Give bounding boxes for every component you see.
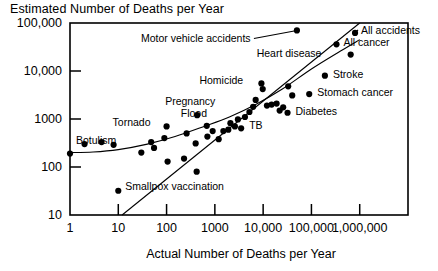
y-tick-label: 1000 [4,112,62,126]
data-point-diabetes [284,110,290,116]
data-point [242,114,248,120]
x-tick-label: 100 [156,221,177,235]
x-tick-label: 1 [67,221,74,235]
data-point [235,116,241,122]
y-tick-label: 100 [4,160,62,174]
data-point [250,104,256,110]
data-point [184,130,190,136]
data-point [148,139,154,145]
data-point [246,109,252,115]
data-point-homicide [258,80,264,86]
data-point [253,97,259,103]
data-point-heart-disease [348,51,354,57]
data-point-tb [238,125,244,131]
point-label-tornado: Tornado [113,117,151,128]
data-point-flood [204,123,210,129]
data-point [194,169,200,175]
x-tick-label: 100,000 [289,221,334,235]
data-point [151,145,157,151]
point-label-diabetes: Diabetes [296,106,337,117]
data-point-all-accidents [352,30,358,36]
data-point [260,86,266,92]
point-label-stomach-cancer: Stomach cancer [317,87,393,98]
data-point-tornado [163,123,169,129]
y-tick-label: 10 [4,208,62,222]
data-point [138,149,144,155]
leader-line [254,30,297,38]
data-point [164,158,170,164]
chart-root: Estimated Number of Deaths per Year 1010… [0,0,438,271]
data-point-all-cancer [333,41,339,47]
data-point-botulism [67,151,73,157]
x-axis-title-text: Actual Number of Deaths per Year [146,247,336,261]
data-point-stroke [322,73,328,79]
x-axis-title: Actual Number of Deaths per Year [0,247,438,261]
y-tick-label: 100,000 [4,16,62,30]
point-label-motor-vehicle-accidents: Motor vehicle accidents [141,33,251,44]
point-label-homicide: Homicide [199,75,243,86]
data-point [216,136,222,142]
point-label-pregnancy: Pregnancy [165,96,215,107]
data-point [225,127,231,133]
point-label-tb: TB [249,120,262,131]
data-point [289,92,295,98]
x-tick-label: 10 [111,221,125,235]
data-point-smallpox-vaccination [115,188,121,194]
data-point [210,128,216,134]
y-tick-label: 10,000 [4,64,62,78]
point-label-heart-disease: Heart disease [257,48,322,59]
x-tick-label: 1000 [201,221,229,235]
point-label-all-accidents: All accidents [361,25,420,36]
point-label-all-cancer: All cancer [343,37,389,48]
point-label-botulism: Botulism [76,135,116,146]
data-point [181,155,187,161]
data-point-stomach-cancer [306,91,312,97]
point-label-stroke: Stroke [333,69,363,80]
data-point [161,135,167,141]
data-point [232,123,238,129]
x-tick-label: 1,000,000 [332,221,388,235]
data-point [285,83,291,89]
x-tick-label: 10,000 [244,221,282,235]
point-label-smallpox-vaccination: Smallpox vaccination [125,181,224,192]
point-label-flood: Flood [181,108,207,119]
data-point-motor-vehicle-accidents [294,27,300,33]
data-point [204,133,210,139]
data-point [274,100,280,106]
data-point [280,104,286,110]
data-point [193,140,199,146]
